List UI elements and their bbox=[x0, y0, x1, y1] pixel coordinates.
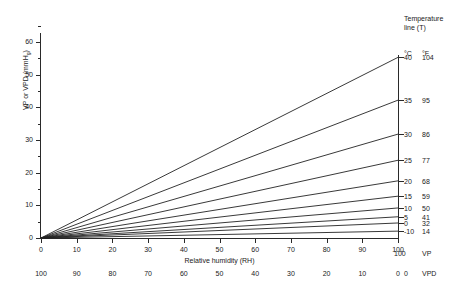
legend-row-40: 40104 bbox=[404, 53, 464, 62]
y-tick-minor bbox=[38, 124, 41, 125]
temperature-line-30 bbox=[41, 134, 398, 238]
x-tick-label-rh: 50 bbox=[207, 246, 233, 254]
legend-value-fahrenheit: 86 bbox=[422, 130, 442, 139]
legend-row-25: 2577 bbox=[404, 156, 464, 165]
legend-row--10: -1014 bbox=[404, 227, 464, 236]
y-tick-major bbox=[36, 205, 41, 206]
y-tick-label: 30 bbox=[11, 136, 33, 144]
y-axis-title-subscript: g bbox=[25, 53, 31, 56]
legend-value-celsius: 20 bbox=[404, 177, 422, 186]
x-tick-label-vpd: 60 bbox=[171, 270, 197, 278]
x-tick-label-rh: 90 bbox=[349, 246, 375, 254]
x-tick-label-vpd: 30 bbox=[278, 270, 304, 278]
x-tick-label-rh: 0 bbox=[28, 246, 54, 254]
axis-end-value-vp: 100 bbox=[394, 250, 406, 258]
y-tick-major bbox=[36, 42, 41, 43]
y-tick-minor bbox=[38, 222, 41, 223]
temperature-line-0 bbox=[41, 223, 398, 238]
axis-end-label-vpd: VPD bbox=[422, 270, 436, 278]
temperature-line-25 bbox=[41, 160, 398, 238]
legend-value-fahrenheit: 14 bbox=[422, 227, 442, 236]
x-tick bbox=[255, 238, 256, 243]
x-tick bbox=[112, 238, 113, 243]
legend-row-35: 3595 bbox=[404, 96, 464, 105]
temperature-line-40 bbox=[41, 57, 398, 238]
y-tick-label: 60 bbox=[11, 38, 33, 46]
legend-value-fahrenheit: 77 bbox=[422, 156, 442, 165]
x-tick-label-vpd: 70 bbox=[135, 270, 161, 278]
x-tick-label-vpd: 50 bbox=[207, 270, 233, 278]
y-tick-label: 20 bbox=[11, 169, 33, 177]
y-tick-major bbox=[36, 140, 41, 141]
x-tick bbox=[148, 238, 149, 243]
legend-value-fahrenheit: 68 bbox=[422, 177, 442, 186]
y-tick-minor bbox=[38, 58, 41, 59]
x-tick-label-rh: 20 bbox=[99, 246, 125, 254]
x-tick-label-vpd: 90 bbox=[64, 270, 90, 278]
legend-value-celsius: 25 bbox=[404, 156, 422, 165]
x-tick-label-rh: 30 bbox=[135, 246, 161, 254]
legend-title-line1: Temperature bbox=[404, 14, 462, 23]
y-tick-major bbox=[36, 107, 41, 108]
y-tick-minor bbox=[38, 189, 41, 190]
temperature-lines-group bbox=[41, 42, 398, 238]
legend-value-celsius: 35 bbox=[404, 96, 422, 105]
legend-row-10: 1050 bbox=[404, 204, 464, 213]
x-tick-label-vpd: 80 bbox=[99, 270, 125, 278]
y-tick-major bbox=[36, 75, 41, 76]
y-tick-minor bbox=[38, 91, 41, 92]
x-tick-label-vpd: 20 bbox=[314, 270, 340, 278]
axis-end-label-vp: VP bbox=[422, 250, 431, 258]
x-tick-label-vpd: 100 bbox=[28, 270, 54, 278]
legend-axis-line bbox=[398, 55, 399, 238]
legend-value-celsius: 40 bbox=[404, 53, 422, 62]
x-tick bbox=[41, 238, 42, 243]
x-tick-label-rh: 40 bbox=[171, 246, 197, 254]
legend-row-15: 1559 bbox=[404, 192, 464, 201]
y-tick-label: 0 bbox=[11, 234, 33, 242]
x-axis-title: Relative humidity (RH) bbox=[41, 257, 398, 264]
temperature-line-20 bbox=[41, 181, 398, 238]
temperature-line-10 bbox=[41, 208, 398, 238]
x-tick bbox=[327, 238, 328, 243]
x-tick-label-rh: 80 bbox=[314, 246, 340, 254]
legend-value-celsius: 10 bbox=[404, 204, 422, 213]
x-tick bbox=[362, 238, 363, 243]
plot-area: 0102030405060 0102030405060708090100 100… bbox=[41, 42, 398, 238]
legend-row-20: 2068 bbox=[404, 177, 464, 186]
axis-end-value-vpd: 0 bbox=[404, 270, 408, 278]
x-tick bbox=[220, 238, 221, 243]
y-tick-major bbox=[36, 173, 41, 174]
legend-value-fahrenheit: 95 bbox=[422, 96, 442, 105]
x-tick bbox=[77, 238, 78, 243]
legend-value-fahrenheit: 104 bbox=[422, 53, 442, 62]
legend-value-celsius: -10 bbox=[404, 227, 422, 236]
x-tick bbox=[398, 238, 399, 243]
chart-canvas: 0102030405060 0102030405060708090100 100… bbox=[0, 0, 464, 288]
y-axis-title: VP or VPD (mmHg) bbox=[22, 50, 31, 110]
y-tick-minor bbox=[38, 26, 41, 27]
y-tick-minor bbox=[38, 156, 41, 157]
x-tick bbox=[184, 238, 185, 243]
legend-title: Temperature line (T) bbox=[404, 14, 462, 32]
x-tick-label-rh: 60 bbox=[242, 246, 268, 254]
legend-value-celsius: 15 bbox=[404, 192, 422, 201]
x-tick bbox=[291, 238, 292, 243]
x-tick-label-rh: 70 bbox=[278, 246, 304, 254]
x-tick-label-vpd: 10 bbox=[349, 270, 375, 278]
y-tick-label: 10 bbox=[11, 201, 33, 209]
x-tick-label-rh: 10 bbox=[64, 246, 90, 254]
legend-row-30: 3086 bbox=[404, 130, 464, 139]
legend-title-line2: line (T) bbox=[404, 23, 462, 32]
legend-value-fahrenheit: 59 bbox=[422, 192, 442, 201]
legend-value-fahrenheit: 50 bbox=[422, 204, 442, 213]
x-tick-label-vpd: 40 bbox=[242, 270, 268, 278]
legend-value-celsius: 30 bbox=[404, 130, 422, 139]
